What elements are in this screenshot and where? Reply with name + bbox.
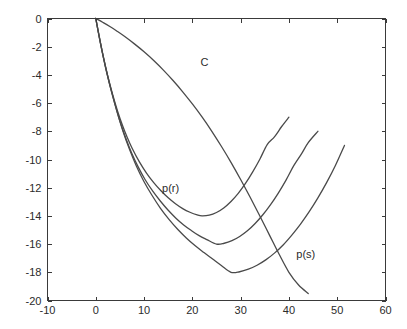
y-tick-label-5: -10	[26, 154, 42, 166]
figure-container: -100102030405060-20-18-16-14-12-10-8-6-4…	[0, 0, 407, 329]
y-tick-label-1: -18	[26, 266, 42, 278]
x-tick-label-2: 10	[138, 304, 150, 316]
x-tick-label-3: 20	[186, 304, 198, 316]
y-tick-label-4: -12	[26, 182, 42, 194]
x-tick-label-4: 30	[235, 304, 247, 316]
line-chart: -100102030405060-20-18-16-14-12-10-8-6-4…	[0, 0, 407, 329]
curve-label-pr: p(r)	[162, 182, 179, 194]
y-tick-label-9: -2	[32, 41, 42, 53]
y-tick-label-2: -16	[26, 238, 42, 250]
y-tick-label-6: -8	[32, 125, 42, 137]
x-tick-label-7: 60	[379, 304, 391, 316]
plot-background	[0, 0, 407, 329]
x-tick-label-1: 0	[93, 304, 99, 316]
y-tick-label-7: -6	[32, 97, 42, 109]
curve-label-ps: p(s)	[296, 248, 315, 260]
y-tick-label-10: 0	[35, 13, 41, 25]
curve-label-C: C	[200, 56, 208, 68]
y-tick-label-0: -20	[26, 295, 42, 307]
y-tick-label-8: -4	[32, 69, 42, 81]
x-tick-label-5: 40	[283, 304, 295, 316]
x-tick-label-0: -10	[40, 304, 56, 316]
y-tick-label-3: -14	[26, 210, 42, 222]
x-tick-label-6: 50	[331, 304, 343, 316]
